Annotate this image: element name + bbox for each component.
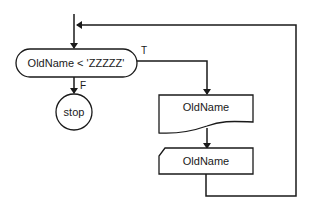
document-label: OldName bbox=[183, 101, 229, 113]
document-node: OldName bbox=[159, 95, 253, 133]
stop-node: stop bbox=[56, 94, 92, 130]
manual-input-label: OldName bbox=[183, 155, 229, 167]
true-branch-connector bbox=[137, 61, 207, 94]
true-branch-label: T bbox=[141, 45, 147, 56]
decision-label: OldName < 'ZZZZZ' bbox=[28, 57, 125, 69]
manual-input-node: OldName bbox=[159, 148, 253, 174]
stop-label: stop bbox=[64, 106, 85, 118]
flowchart-svg: OldName < 'ZZZZZ' T F stop OldName OldNa… bbox=[0, 0, 313, 209]
false-branch-label: F bbox=[80, 80, 86, 91]
decision-node: OldName < 'ZZZZZ' bbox=[16, 49, 137, 77]
flowchart: OldName < 'ZZZZZ' T F stop OldName OldNa… bbox=[0, 0, 313, 209]
